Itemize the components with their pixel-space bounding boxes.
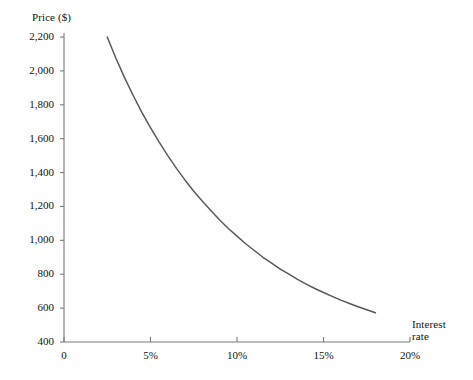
y-tick-label: 1,000 xyxy=(14,234,54,245)
y-tick-label: 800 xyxy=(14,268,54,279)
y-tick-label: 2,200 xyxy=(14,31,54,42)
x-tick-label: 10% xyxy=(217,350,257,361)
x-tick-label: 0 xyxy=(44,350,84,361)
x-tick-label: 5% xyxy=(131,350,171,361)
x-tick-label: 20% xyxy=(390,350,430,361)
y-tick-label: 1,600 xyxy=(14,133,54,144)
series-layer xyxy=(107,37,375,313)
y-tick-label: 1,800 xyxy=(14,99,54,110)
y-tick-label: 1,400 xyxy=(14,167,54,178)
chart-container: Price ($) Interestrate 4006008001,0001,2… xyxy=(0,0,473,380)
y-tick-label: 400 xyxy=(14,336,54,347)
plot-area xyxy=(0,0,473,380)
tick-marks xyxy=(60,37,410,342)
x-tick-label: 15% xyxy=(304,350,344,361)
axis-lines xyxy=(64,33,410,342)
y-tick-label: 1,200 xyxy=(14,200,54,211)
y-tick-label: 600 xyxy=(14,302,54,313)
y-tick-label: 2,000 xyxy=(14,65,54,76)
price-curve xyxy=(107,37,375,313)
